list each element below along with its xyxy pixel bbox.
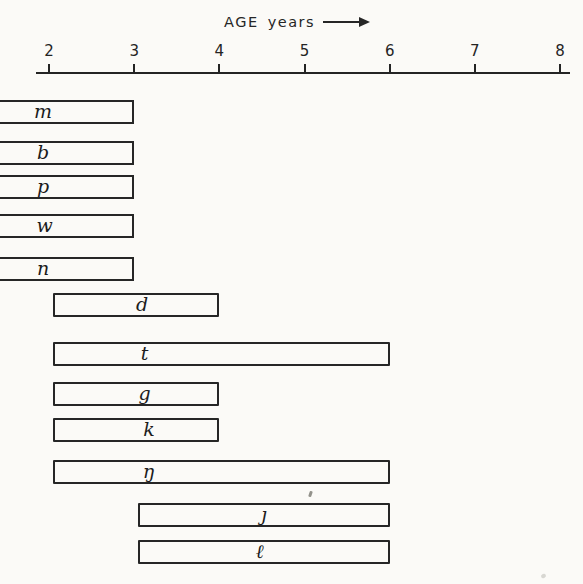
arrow-shaft [323, 21, 359, 23]
bar-label-p: p [37, 177, 49, 196]
arrow-head [359, 17, 370, 27]
scan-speck [308, 491, 313, 498]
range-bar-b: b [0, 141, 134, 165]
x-axis-tick-label: 6 [378, 42, 402, 60]
x-axis-tick-label: 5 [293, 42, 317, 60]
range-bar-n: n [0, 257, 134, 281]
range-bar-d: d [53, 293, 219, 317]
range-bar-w: w [0, 214, 134, 238]
age-range-chart: AGE years 2345678 mbpwndtgkŋȷℓ [0, 0, 583, 584]
x-axis-tick [559, 64, 561, 73]
x-axis-tick-label: 7 [463, 42, 487, 60]
x-axis-tick [389, 64, 391, 73]
x-axis-tick-label: 4 [207, 42, 231, 60]
x-axis-tick [304, 64, 306, 73]
range-bar-ŋ: ŋ [53, 460, 390, 484]
range-bar-p: p [0, 175, 134, 199]
bar-label-ŋ: ŋ [143, 462, 155, 481]
scan-speck [540, 573, 546, 579]
right-arrow-icon [323, 17, 370, 27]
x-axis-tick-label: 2 [37, 42, 61, 60]
bar-label-d: d [136, 295, 148, 314]
bar-label-n: n [37, 259, 49, 278]
chart-title: AGE years [224, 12, 370, 32]
x-axis-tick [218, 64, 220, 73]
range-bar-j: ȷ [138, 503, 390, 527]
x-axis-tick-label: 8 [548, 42, 572, 60]
bar-label-m: m [34, 102, 52, 121]
range-bar-m: m [0, 100, 134, 124]
x-axis-tick [48, 64, 50, 73]
bar-label-l: ℓ [256, 542, 264, 561]
x-axis-tick [133, 64, 135, 73]
x-axis-tick [474, 64, 476, 73]
range-bar-k: k [53, 418, 219, 442]
bar-label-g: g [139, 384, 151, 403]
bar-label-k: k [143, 420, 155, 439]
bar-label-j: ȷ [261, 505, 267, 524]
range-bar-l: ℓ [138, 540, 390, 564]
bar-label-w: w [37, 216, 53, 235]
range-bar-g: g [53, 382, 219, 406]
bar-label-b: b [37, 143, 49, 162]
bar-label-t: t [141, 344, 149, 363]
range-bar-t: t [53, 342, 390, 366]
x-axis-tick-label: 3 [122, 42, 146, 60]
chart-title-text: AGE years [224, 14, 315, 30]
